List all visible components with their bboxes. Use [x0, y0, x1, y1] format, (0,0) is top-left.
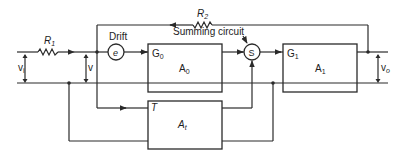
- block-diagram: R1 R2 Drift e Summing circuit S G0 A0 G1…: [0, 0, 405, 158]
- r1-label: R1: [44, 35, 55, 47]
- at-gain-label: T: [151, 102, 158, 113]
- summing-circuit-label: Summing circuit: [173, 26, 244, 37]
- summing-symbol: S: [249, 48, 255, 58]
- vi-label: vi: [18, 62, 25, 74]
- r2-label: R2: [197, 8, 208, 20]
- v-label: v: [88, 62, 93, 73]
- vo-label: vo: [381, 62, 390, 74]
- drift-symbol: e: [113, 48, 118, 58]
- r1-resistor: [38, 49, 58, 55]
- drift-label: Drift: [109, 31, 128, 42]
- summing-pointer: [243, 36, 247, 43]
